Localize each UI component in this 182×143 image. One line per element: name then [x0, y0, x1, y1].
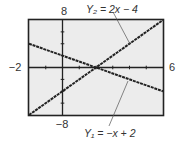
graph-figure: 8 −8 −2 6 Y₂ = 2x − 4 Y₁ = −x + 2	[0, 0, 182, 143]
y2-equation-label: Y₂ = 2x − 4	[86, 3, 138, 15]
y1-equation-label: Y₁ = −x + 2	[84, 127, 136, 139]
x-max-label: 6	[169, 61, 175, 73]
x-min-label: −2	[9, 61, 22, 73]
y-min-label: −8	[56, 118, 69, 130]
y-max-label: 8	[61, 5, 67, 17]
